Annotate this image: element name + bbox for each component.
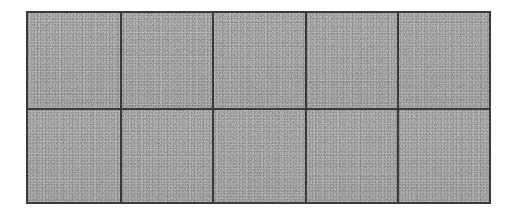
grid-cell-r1c1[interactable] [28,13,120,108]
grid-cell-r1c5[interactable] [397,13,489,108]
grid-cell-r2c3[interactable] [212,108,304,203]
grid-cell-r2c2[interactable] [120,108,212,203]
grid-cell-r2c5[interactable] [397,108,489,203]
grid-cell-r2c4[interactable] [305,108,397,203]
grid-cell-r2c1[interactable] [28,108,120,203]
textured-tile-grid [26,11,491,204]
grid-cell-r1c4[interactable] [305,13,397,108]
grid-cell-r1c2[interactable] [120,13,212,108]
grid-cell-r1c3[interactable] [212,13,304,108]
